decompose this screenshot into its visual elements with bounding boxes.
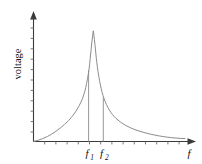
f2-label-subscript: 2	[105, 153, 109, 162]
chart-canvas: voltage	[0, 0, 202, 164]
y-axis-label: voltage	[12, 48, 23, 79]
resonance-curve-figure: voltage	[0, 0, 202, 164]
y-axis-arrowhead	[30, 11, 37, 20]
y-axis-label-group: voltage	[12, 48, 23, 79]
f1-label-subscript: 1	[90, 153, 94, 162]
f2-tick-label: f 2	[100, 147, 109, 162]
resonance-curve	[34, 31, 186, 142]
f1-tick-label: f 1	[85, 147, 94, 162]
x-axis-arrowhead	[188, 138, 197, 145]
x-axis-label: f	[187, 147, 192, 159]
